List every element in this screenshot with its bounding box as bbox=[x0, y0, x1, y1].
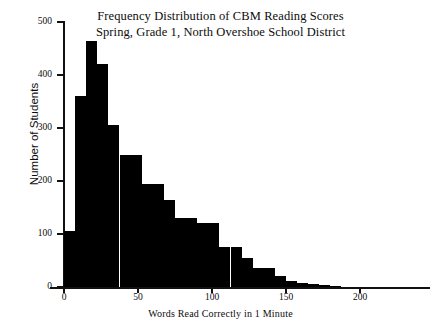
histogram-bar bbox=[286, 281, 297, 287]
histogram-bar bbox=[120, 155, 131, 288]
histogram-bar bbox=[164, 200, 175, 287]
histogram-bar bbox=[242, 258, 253, 287]
bars-layer bbox=[0, 0, 441, 332]
histogram-bar bbox=[253, 268, 264, 287]
histogram-bar bbox=[231, 247, 242, 287]
histogram-bar bbox=[297, 283, 308, 287]
histogram-bar bbox=[64, 231, 75, 287]
histogram-bar bbox=[308, 284, 319, 287]
histogram-bar bbox=[275, 276, 286, 287]
histogram-bar bbox=[108, 125, 119, 287]
histogram-bar bbox=[219, 247, 230, 287]
histogram-bar bbox=[86, 41, 97, 287]
histogram-bar bbox=[97, 64, 108, 287]
histogram-bar bbox=[264, 268, 275, 287]
histogram-bar bbox=[330, 286, 341, 287]
histogram-bar bbox=[186, 218, 197, 287]
histogram-bar bbox=[197, 223, 208, 287]
histogram-bar bbox=[131, 155, 142, 288]
histogram-bar bbox=[142, 184, 153, 287]
histogram-bar bbox=[319, 285, 330, 287]
histogram-bar bbox=[153, 184, 164, 287]
histogram-chart: Frequency Distribution of CBM Reading Sc… bbox=[0, 0, 441, 332]
histogram-bar bbox=[208, 223, 219, 287]
histogram-bar bbox=[175, 218, 186, 287]
histogram-bar bbox=[75, 96, 86, 287]
